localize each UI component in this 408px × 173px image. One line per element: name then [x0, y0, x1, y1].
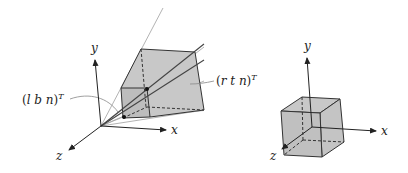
right-cube-diagram: y x z [269, 39, 388, 163]
left-y-label: y [90, 41, 98, 55]
right-x-label: x [381, 124, 388, 138]
label-rtn: (r t n)T [216, 73, 257, 88]
right-y-label: y [303, 39, 311, 53]
left-x-axis [101, 126, 166, 130]
point-rtn [145, 87, 149, 91]
label-lbn: (l b n)T [22, 92, 64, 107]
left-z-axis [69, 126, 101, 150]
cube-front-face [281, 111, 322, 157]
near-face [121, 88, 150, 118]
point-lbn [122, 115, 126, 119]
left-y-axis [95, 60, 101, 126]
frustum-body [121, 49, 204, 118]
right-z-label: z [269, 149, 277, 163]
left-z-label: z [55, 149, 63, 163]
left-frustum-diagram: y x z (l b n)T (r t n)T [22, 8, 257, 163]
leader-lbn [70, 96, 118, 112]
frustum-to-cube-diagram: y x z (l b n)T (r t n)T [0, 0, 408, 173]
left-x-label: x [171, 123, 178, 137]
